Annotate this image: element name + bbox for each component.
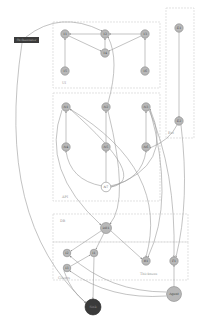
edge-t1-to-t4 xyxy=(69,36,101,51)
node-sink[interactable]: Sink xyxy=(85,299,101,315)
edge-n2-to-db1 xyxy=(108,111,120,224)
node-label: T6 xyxy=(143,69,147,73)
node-label: T2 xyxy=(103,32,107,36)
node-label: E1 xyxy=(177,26,181,30)
node-label: I2 xyxy=(65,251,68,255)
edge-n1-to-db1 xyxy=(56,110,101,225)
cluster-label: DB xyxy=(60,219,66,223)
node-label: T5 xyxy=(63,69,67,73)
node-db1[interactable]: DB1 xyxy=(101,223,112,234)
node-t4[interactable]: T4 xyxy=(101,49,109,57)
orchestrator-label: Orchestrator xyxy=(17,38,37,42)
node-label: I1 xyxy=(92,251,95,255)
cluster-c3 xyxy=(53,214,188,242)
cluster-c4 xyxy=(53,242,188,280)
cluster-label: API xyxy=(61,195,69,199)
node-n1[interactable]: N1 xyxy=(62,103,70,111)
node-n5[interactable]: N5 xyxy=(102,143,110,151)
clusters: UIAPIExtDBClientsThickness xyxy=(53,8,194,280)
node-i3[interactable]: I3 xyxy=(63,264,71,272)
node-label: N1 xyxy=(64,105,69,109)
node-label: N6 xyxy=(144,145,149,149)
edge-e2-to-f1 xyxy=(176,125,185,257)
edge-e2-to-n6 xyxy=(150,125,177,148)
node-label: DB1 xyxy=(103,226,110,230)
node-label: N3 xyxy=(144,105,149,109)
node-r1[interactable]: R1 xyxy=(142,257,150,265)
node-label: Agent xyxy=(168,292,179,296)
diagram-canvas: UIAPIExtDBClientsThickness Orchestrator … xyxy=(0,0,204,333)
node-t5[interactable]: T5 xyxy=(61,67,69,75)
edges xyxy=(16,22,185,303)
node-n4[interactable]: N4 xyxy=(62,143,70,151)
node-label: E2 xyxy=(177,119,181,123)
node-t3[interactable]: T3 xyxy=(141,30,149,38)
edge-db1-to-i1 xyxy=(96,233,104,249)
node-i1[interactable]: I1 xyxy=(90,249,98,257)
node-label: N4 xyxy=(64,145,69,149)
nodes: T1T2T3T4T5T6E1E2N1N2N3N4N5N6N7DB1I2I1I3R… xyxy=(61,24,183,315)
node-t1[interactable]: T1 xyxy=(61,30,69,38)
node-n2[interactable]: N2 xyxy=(102,103,110,111)
node-n6[interactable]: N6 xyxy=(142,143,150,151)
node-n7[interactable]: N7 xyxy=(101,182,111,192)
node-label: T4 xyxy=(103,51,107,55)
node-f1[interactable]: F1 xyxy=(170,257,178,265)
node-n3[interactable]: N3 xyxy=(142,103,150,111)
cluster-label: UI xyxy=(62,81,67,85)
node-label: T1 xyxy=(63,32,67,36)
node-label: F1 xyxy=(172,259,176,263)
edge-n7-to-n4 xyxy=(66,151,102,186)
node-agent[interactable]: Agent xyxy=(167,287,182,302)
edge-t3-to-t4 xyxy=(109,36,141,51)
node-t6[interactable]: T6 xyxy=(141,67,149,75)
cluster-label: Ext xyxy=(168,131,174,135)
node-e1[interactable]: E1 xyxy=(175,24,183,32)
node-label: N7 xyxy=(104,185,109,189)
node-t2[interactable]: T2 xyxy=(101,30,109,38)
orchestrator-node[interactable]: Orchestrator xyxy=(14,37,39,43)
node-label: N2 xyxy=(104,105,109,109)
edge-n1-to-r1 xyxy=(70,109,151,257)
node-i2[interactable]: I2 xyxy=(63,249,71,257)
node-label: R1 xyxy=(144,259,148,263)
node-label: Sink xyxy=(89,305,96,309)
cluster-label: Thickness xyxy=(140,272,157,276)
edge-i1-to-sink xyxy=(93,257,94,299)
node-label: I3 xyxy=(65,266,68,270)
node-label: N5 xyxy=(104,145,109,149)
node-label: T3 xyxy=(143,32,147,36)
node-e2[interactable]: E2 xyxy=(175,117,183,125)
edge-db1-to-r1 xyxy=(111,231,142,259)
